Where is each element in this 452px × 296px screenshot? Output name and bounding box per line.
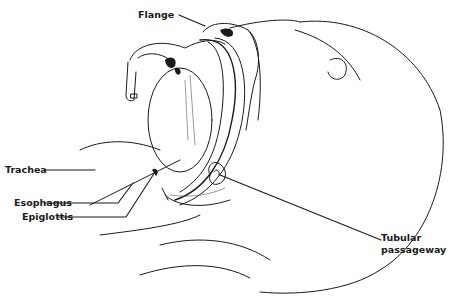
tubular-leader xyxy=(220,175,381,240)
label-trachea: Trachea xyxy=(5,164,47,175)
label-esophagus: Esophagus xyxy=(14,197,72,208)
oral-cavity xyxy=(148,68,212,172)
label-tubular-line2: passageway xyxy=(381,244,446,255)
teeth xyxy=(138,54,170,60)
nose xyxy=(328,58,346,79)
neck-line-3 xyxy=(100,215,200,235)
neck-line-1 xyxy=(80,142,160,150)
label-flange: Flange xyxy=(138,9,174,20)
tubular-passageway-outer xyxy=(175,40,235,200)
label-tubular-line1: Tubular xyxy=(381,232,421,243)
flange-leader xyxy=(179,15,205,26)
label-epiglottis: Epiglottis xyxy=(22,211,73,222)
forehead-line xyxy=(295,30,360,80)
chin-line xyxy=(160,240,270,260)
